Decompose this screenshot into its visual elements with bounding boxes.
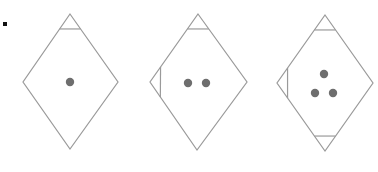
panel-3	[277, 15, 373, 151]
diamond-sequence-figure	[0, 0, 378, 172]
dot	[184, 79, 192, 87]
dot	[66, 78, 74, 86]
panel-1	[23, 14, 118, 149]
dot	[202, 79, 210, 87]
dot	[320, 70, 328, 78]
diamond-outline	[277, 15, 373, 151]
dot	[329, 89, 337, 97]
panel-2	[150, 14, 247, 150]
dot	[311, 89, 319, 97]
diamond-outline	[150, 14, 247, 150]
